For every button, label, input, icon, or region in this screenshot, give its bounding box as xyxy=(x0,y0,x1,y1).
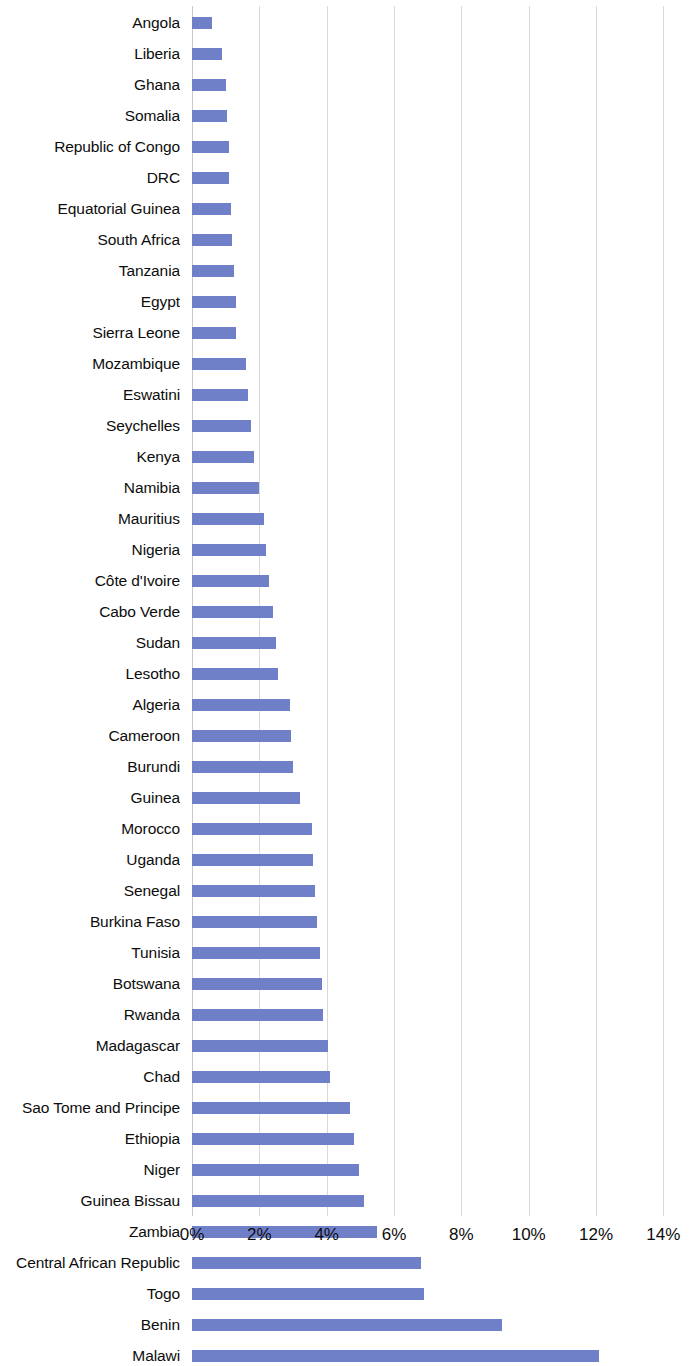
bar-row: Morocco xyxy=(0,813,689,844)
bar[interactable] xyxy=(192,668,278,680)
category-label: Guinea xyxy=(0,782,180,813)
category-label: Niger xyxy=(0,1154,180,1185)
bar[interactable] xyxy=(192,420,251,432)
category-label: Tunisia xyxy=(0,937,180,968)
category-label: Egypt xyxy=(0,286,180,317)
bar-row: Guinea xyxy=(0,782,689,813)
bar[interactable] xyxy=(192,699,290,711)
category-label: Uganda xyxy=(0,844,180,875)
category-label: DRC xyxy=(0,162,180,193)
bar-row: Madagascar xyxy=(0,1030,689,1061)
bar-row: Niger xyxy=(0,1154,689,1185)
bar[interactable] xyxy=(192,761,293,773)
category-label: Seychelles xyxy=(0,410,180,441)
bar-row: Republic of Congo xyxy=(0,131,689,162)
bar[interactable] xyxy=(192,48,222,60)
bar[interactable] xyxy=(192,575,269,587)
bar[interactable] xyxy=(192,823,312,835)
bar[interactable] xyxy=(192,854,313,866)
category-label: Togo xyxy=(0,1278,180,1309)
bar-row: Sao Tome and Principe xyxy=(0,1092,689,1123)
bar[interactable] xyxy=(192,265,234,277)
bar[interactable] xyxy=(192,544,266,556)
bar[interactable] xyxy=(192,1071,330,1083)
bar[interactable] xyxy=(192,730,291,742)
category-label: Mozambique xyxy=(0,348,180,379)
category-label: Tanzania xyxy=(0,255,180,286)
bar[interactable] xyxy=(192,79,226,91)
bar-row: Lesotho xyxy=(0,658,689,689)
category-label: Equatorial Guinea xyxy=(0,193,180,224)
category-label: Liberia xyxy=(0,38,180,69)
category-label: Madagascar xyxy=(0,1030,180,1061)
category-label: Algeria xyxy=(0,689,180,720)
bar[interactable] xyxy=(192,1288,424,1300)
bar[interactable] xyxy=(192,1133,354,1145)
bar-row: Eswatini xyxy=(0,379,689,410)
bar[interactable] xyxy=(192,17,212,29)
bar-row: Liberia xyxy=(0,38,689,69)
category-label: Guinea Bissau xyxy=(0,1185,180,1216)
bar-row: Angola xyxy=(0,7,689,38)
bar[interactable] xyxy=(192,141,229,153)
bar-row: Mauritius xyxy=(0,503,689,534)
category-label: Republic of Congo xyxy=(0,131,180,162)
category-label: Benin xyxy=(0,1309,180,1340)
category-label: Sierra Leone xyxy=(0,317,180,348)
bar-row: DRC xyxy=(0,162,689,193)
bar[interactable] xyxy=(192,978,322,990)
bar[interactable] xyxy=(192,1102,350,1114)
bar-row: Sierra Leone xyxy=(0,317,689,348)
category-label: Rwanda xyxy=(0,999,180,1030)
bar[interactable] xyxy=(192,947,320,959)
bar-row: Rwanda xyxy=(0,999,689,1030)
bar-row: Sudan xyxy=(0,627,689,658)
bar[interactable] xyxy=(192,1319,502,1331)
category-label: Namibia xyxy=(0,472,180,503)
bar[interactable] xyxy=(192,1257,421,1269)
category-label: Sudan xyxy=(0,627,180,658)
category-label: Ghana xyxy=(0,69,180,100)
plot-area: AngolaLiberiaGhanaSomaliaRepublic of Con… xyxy=(0,0,689,1216)
bar[interactable] xyxy=(192,296,236,308)
bar[interactable] xyxy=(192,885,315,897)
bar[interactable] xyxy=(192,172,229,184)
bar-row: Namibia xyxy=(0,472,689,503)
bar[interactable] xyxy=(192,1195,364,1207)
x-tick-label: 14% xyxy=(623,1225,689,1245)
bar[interactable] xyxy=(192,234,232,246)
category-label: Botswana xyxy=(0,968,180,999)
bar-row: Burundi xyxy=(0,751,689,782)
category-label: Cameroon xyxy=(0,720,180,751)
bar[interactable] xyxy=(192,327,236,339)
category-label: Nigeria xyxy=(0,534,180,565)
bar[interactable] xyxy=(192,1009,323,1021)
bar[interactable] xyxy=(192,1350,599,1362)
bar[interactable] xyxy=(192,606,273,618)
category-label: Burundi xyxy=(0,751,180,782)
bar-row: Chad xyxy=(0,1061,689,1092)
bar[interactable] xyxy=(192,110,227,122)
bar[interactable] xyxy=(192,1040,328,1052)
bar-row: Mozambique xyxy=(0,348,689,379)
category-label: Somalia xyxy=(0,100,180,131)
category-label: Cabo Verde xyxy=(0,596,180,627)
bar[interactable] xyxy=(192,203,231,215)
bar[interactable] xyxy=(192,451,254,463)
bar[interactable] xyxy=(192,1164,359,1176)
bar-row: Equatorial Guinea xyxy=(0,193,689,224)
bar[interactable] xyxy=(192,389,248,401)
x-axis: 0%2%4%6%8%10%12%14% xyxy=(0,1216,689,1255)
bar[interactable] xyxy=(192,637,276,649)
bar[interactable] xyxy=(192,792,300,804)
bar[interactable] xyxy=(192,916,317,928)
category-label: Kenya xyxy=(0,441,180,472)
category-label: Morocco xyxy=(0,813,180,844)
bar[interactable] xyxy=(192,482,259,494)
category-label: Sao Tome and Principe xyxy=(0,1092,180,1123)
bar-row: Tanzania xyxy=(0,255,689,286)
bar[interactable] xyxy=(192,513,264,525)
bar-row: Cabo Verde xyxy=(0,596,689,627)
bar[interactable] xyxy=(192,358,246,370)
